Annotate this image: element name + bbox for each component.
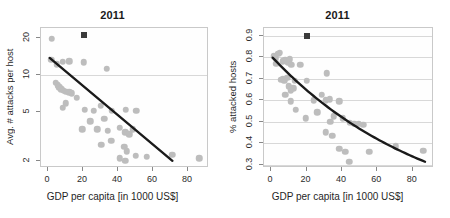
scatter-point — [97, 103, 104, 110]
x-tick-label: 80 — [407, 174, 417, 184]
y-tick-mark — [36, 111, 40, 112]
scatter-point — [144, 154, 151, 161]
scatter-point — [98, 142, 105, 149]
scatter-point — [420, 148, 427, 155]
y-tick-label: 5 — [21, 108, 31, 113]
scatter-point — [122, 158, 129, 165]
scatter-point — [297, 61, 304, 68]
gridline — [264, 165, 432, 166]
panel-left-title: 2011 — [0, 9, 225, 21]
scatter-point — [326, 96, 333, 103]
scatter-point — [123, 107, 130, 114]
scatter-point — [340, 115, 347, 122]
y-tick-mark — [259, 99, 263, 100]
y-tick-label: 20 — [21, 32, 31, 42]
x-tick-mark — [341, 167, 342, 171]
y-tick-mark — [259, 142, 263, 143]
x-tick-mark — [270, 167, 271, 171]
y-tick-mark — [259, 56, 263, 57]
scatter-point — [287, 98, 294, 105]
chart-panel-left: 2011 Avg. # attacks per host GDP per cap… — [0, 0, 225, 218]
scatter-point — [324, 70, 331, 77]
y-tick-mark — [259, 164, 263, 165]
scatter-point — [48, 36, 55, 43]
y-axis-label-left: Avg. # attacks per host — [4, 27, 15, 167]
scatter-point — [288, 61, 295, 68]
scatter-point — [108, 138, 115, 145]
x-tick-mark — [82, 167, 83, 171]
y-tick-label: 0.6 — [244, 93, 254, 106]
x-tick-label: 60 — [147, 174, 157, 184]
x-tick-mark — [376, 167, 377, 171]
scatter-point — [82, 107, 89, 114]
y-tick-label: 0.7 — [244, 71, 254, 84]
scatter-point — [393, 143, 400, 150]
x-tick-label: 80 — [182, 174, 192, 184]
scatter-point — [104, 128, 111, 135]
scatter-point — [292, 78, 299, 85]
y-tick-label: 2 — [21, 157, 31, 162]
scatter-point — [282, 92, 289, 99]
scatter-point — [124, 148, 131, 155]
x-tick-label: 40 — [112, 174, 122, 184]
scatter-point — [109, 108, 116, 115]
scatter-point — [74, 95, 81, 102]
chart-panel-right: 2011 % attacked hosts GDP per capita [in… — [225, 0, 450, 218]
plot-area-right — [263, 27, 433, 167]
scatter-point — [293, 107, 300, 114]
y-tick-label: 0.9 — [244, 28, 254, 41]
scatter-point — [66, 58, 73, 65]
scatter-point — [303, 78, 310, 85]
x-tick-mark — [152, 167, 153, 171]
scatter-point — [302, 115, 309, 122]
scatter-point — [346, 158, 353, 165]
y-tick-mark — [259, 121, 263, 122]
y-tick-mark — [36, 37, 40, 38]
highlight-square-marker — [81, 32, 87, 38]
y-tick-label: 10 — [21, 69, 31, 79]
x-tick-label: 20 — [77, 174, 87, 184]
y-tick-mark — [259, 78, 263, 79]
scatter-point — [342, 149, 349, 156]
scatter-point — [290, 85, 297, 92]
gridline — [264, 36, 432, 37]
y-tick-label: 0.8 — [244, 50, 254, 63]
gridline — [264, 143, 432, 144]
x-tick-label: 60 — [371, 174, 381, 184]
x-axis-label-left: GDP per capita [in 1000 US$] — [0, 191, 225, 202]
scatter-point — [360, 122, 367, 129]
x-tick-mark — [306, 167, 307, 171]
scatter-point — [130, 126, 137, 133]
scatter-point — [331, 113, 338, 120]
highlight-square-marker — [304, 33, 310, 39]
x-tick-label: 20 — [300, 174, 310, 184]
x-tick-mark — [117, 167, 118, 171]
x-tick-label: 0 — [44, 174, 49, 184]
y-tick-mark — [36, 74, 40, 75]
y-tick-label: 0.4 — [244, 136, 254, 149]
scatter-point — [79, 126, 86, 133]
scatter-point — [366, 149, 373, 156]
scatter-point — [329, 132, 336, 139]
x-tick-label: 40 — [336, 174, 346, 184]
scatter-point — [133, 108, 140, 115]
panel-right-title: 2011 — [225, 9, 450, 21]
x-axis-label-right: GDP per capita [in 1000 US$] — [225, 191, 450, 202]
y-tick-label: 0.3 — [244, 158, 254, 171]
scatter-point — [314, 109, 321, 116]
scatter-point — [132, 153, 139, 160]
y-tick-mark — [259, 35, 263, 36]
x-tick-mark — [187, 167, 188, 171]
scatter-point — [196, 155, 203, 162]
x-tick-label: 0 — [268, 174, 273, 184]
scatter-point — [277, 50, 284, 57]
scatter-point — [169, 151, 176, 158]
plot-area-left — [40, 27, 208, 167]
scatter-point — [90, 108, 97, 115]
scatter-point — [284, 74, 291, 81]
scatter-point — [310, 97, 317, 104]
scatter-point — [60, 105, 67, 112]
y-tick-mark — [36, 160, 40, 161]
x-tick-mark — [412, 167, 413, 171]
scatter-point — [87, 118, 94, 125]
